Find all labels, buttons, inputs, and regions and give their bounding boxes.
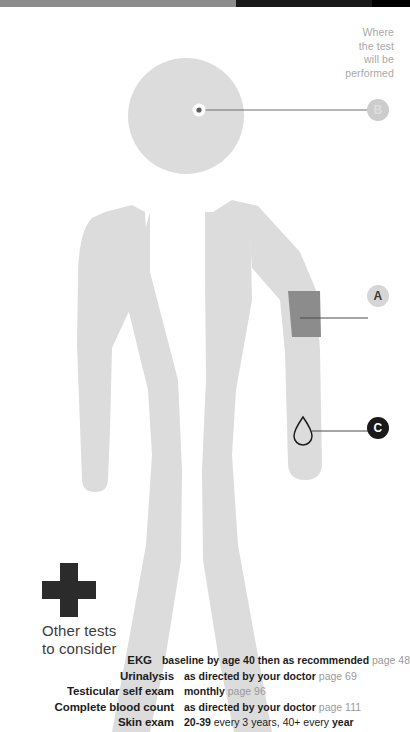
test-detail-part: baseline by age 40 then as recommended [162, 654, 369, 666]
other-tests-heading-line-1: Other tests [42, 622, 162, 640]
test-name: Urinalysis [0, 670, 184, 682]
where-test-line-3: will be [304, 53, 394, 67]
test-detail-part: year [332, 716, 354, 728]
test-detail: baseline by age 40 then as recommended p… [162, 654, 410, 666]
marker-c-label: C [374, 421, 383, 435]
where-test-line-1: Where [304, 26, 394, 40]
marker-b[interactable]: B [367, 99, 389, 121]
test-detail-part: as directed by your doctor [184, 670, 316, 682]
test-detail: monthly page 96 [184, 685, 410, 697]
test-detail-part: every 3 years, 40+ every [214, 716, 329, 728]
marker-a[interactable]: A [367, 285, 389, 307]
test-detail-part: page 111 [319, 701, 361, 713]
test-name: EKG [0, 654, 162, 666]
test-detail: 20-39 every 3 years, 40+ every year [184, 716, 410, 728]
marker-a-label: A [374, 289, 383, 303]
test-detail: as directed by your doctor page 69 [184, 670, 410, 682]
left-arm-shape [77, 205, 148, 492]
blood-pressure-cuff [288, 291, 321, 337]
head-shape [128, 58, 244, 174]
test-row: Skin exam20-39 every 3 years, 40+ every … [0, 716, 410, 732]
test-detail-part: 20-39 [184, 716, 211, 728]
where-test-line-4: performed [304, 67, 394, 81]
other-tests-table: EKGbaseline by age 40 then as recommende… [0, 654, 410, 732]
test-row: EKGbaseline by age 40 then as recommende… [0, 654, 410, 670]
medical-cross-icon [42, 563, 96, 617]
test-name: Testicular self exam [0, 685, 184, 697]
test-detail-part: page 48 [372, 654, 410, 666]
marker-c[interactable]: C [367, 417, 389, 439]
test-row: Testicular self exammonthly page 96 [0, 685, 410, 701]
test-row: Urinalysisas directed by your doctor pag… [0, 670, 410, 686]
marker-b-label: B [374, 103, 383, 117]
test-detail-part: as directed by your doctor [184, 701, 316, 713]
test-name: Complete blood count [0, 701, 184, 713]
test-detail: as directed by your doctor page 111 [184, 701, 410, 713]
test-detail-part: page 69 [319, 670, 357, 682]
test-name: Skin exam [0, 716, 184, 728]
test-row: Complete blood countas directed by your … [0, 701, 410, 717]
test-detail-part: monthly [184, 685, 225, 697]
other-tests-heading: Other tests to consider [42, 622, 162, 658]
where-test-performed-label: Where the test will be performed [304, 26, 394, 80]
test-detail-part: page 96 [228, 685, 266, 697]
eye-dot-icon [196, 107, 201, 112]
where-test-line-2: the test [304, 40, 394, 54]
